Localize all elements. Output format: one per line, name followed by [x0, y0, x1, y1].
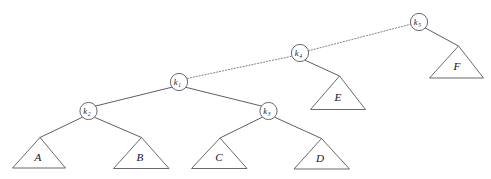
tree-edge-k2-B [95, 117, 142, 137]
edges-layer [40, 24, 459, 138]
tree-diagram-canvas: ABCDEF k1k2k3k4k5 [0, 0, 491, 179]
tree-edge-k1-k2 [96, 87, 172, 106]
subtree-label-B: B [137, 151, 144, 163]
subtree-label-F: F [453, 60, 461, 72]
node-subscript-k2: 2 [88, 111, 91, 117]
tree-node-k3: k3 [260, 102, 277, 119]
tree-edge-k1-k3 [186, 87, 261, 106]
tree-node-k1: k1 [170, 73, 187, 90]
node-subscript-k3: 3 [267, 111, 271, 117]
tree-edge-k4-k5 [308, 24, 410, 51]
node-subscript-k1: 1 [178, 82, 181, 88]
subtree-B: B [114, 138, 170, 169]
tree-diagram-figure: ABCDEF k1k2k3k4k5 [0, 0, 491, 179]
tree-node-k2: k2 [80, 102, 97, 119]
subtree-label-A: A [34, 151, 42, 163]
subtree-label-E: E [334, 91, 342, 103]
tree-edge-k3-D [275, 117, 322, 138]
subtree-label-D: D [315, 152, 324, 164]
tree-edge-k3-C [220, 117, 262, 138]
tree-node-k5: k5 [410, 13, 427, 30]
tree-edge-k1-k4 [187, 56, 292, 78]
tree-edge-k5-F [425, 28, 458, 46]
subtree-D: D [294, 139, 350, 170]
subtree-A: A [13, 138, 66, 169]
subtree-C: C [192, 138, 248, 169]
tree-node-k4: k4 [291, 44, 308, 61]
subtree-E: E [311, 76, 366, 110]
tree-edge-k4-E [305, 60, 340, 76]
node-subscript-k4: 4 [299, 53, 302, 59]
subtree-F: F [430, 46, 484, 78]
tree-edge-k2-A [40, 117, 83, 137]
node-subscript-k5: 5 [418, 22, 421, 28]
subtree-label-C: C [215, 151, 223, 163]
